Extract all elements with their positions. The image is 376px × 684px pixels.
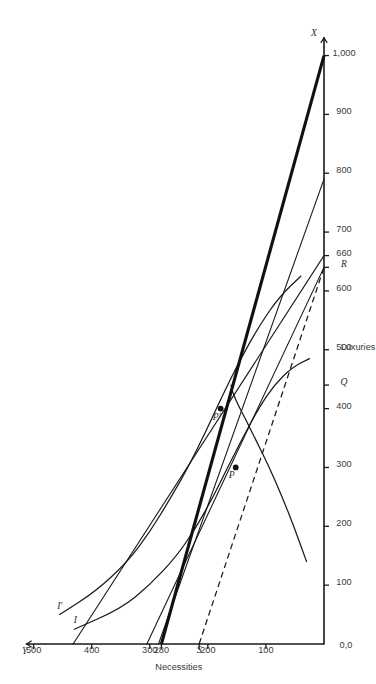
- y-axis-title: Necessities: [155, 662, 202, 672]
- series-budget-line-2: [158, 179, 324, 644]
- x-ticklabel-600: 600: [336, 283, 351, 293]
- y-ticklabel-200: 200: [200, 645, 215, 655]
- y-ticklabel-100: 100: [258, 645, 273, 655]
- chart-axes: [27, 38, 324, 644]
- series-I: [74, 359, 309, 630]
- x-ticklabel-700: 700: [336, 224, 351, 234]
- series-I': [60, 276, 301, 614]
- series-budget-line-1: [147, 267, 324, 644]
- series-budget-line-3: [73, 256, 324, 644]
- y-ticklabel-400: 400: [84, 645, 99, 655]
- axis-mark-Q: Q: [341, 376, 348, 387]
- x-ticklabel-800: 800: [336, 165, 351, 175]
- y-ticklabel-500: 500: [26, 645, 41, 655]
- x-axis-end-label: X: [310, 27, 318, 38]
- curve-label-I: I: [73, 614, 78, 625]
- x-ticklabel-100: 100: [336, 577, 351, 587]
- curve-label-I': I': [56, 600, 63, 611]
- series-budget-line-bold: [161, 56, 324, 644]
- x-ticklabel-200: 200: [336, 518, 351, 528]
- axis-mark-R: R: [340, 258, 347, 269]
- axis-mark-S: S: [197, 644, 202, 655]
- x-ticklabel-660: 660: [336, 248, 351, 258]
- plot-area: 1002003004005006006607008009001,00010020…: [22, 27, 376, 672]
- series-Q-curve: [231, 385, 307, 562]
- x-ticklabel-900: 900: [336, 106, 351, 116]
- point-label-P: P: [228, 469, 235, 480]
- y-ticklabel-300: 300: [142, 645, 157, 655]
- x-ticklabel-300: 300: [336, 459, 351, 469]
- x-axis-title: Luxuries: [341, 342, 376, 352]
- origin-label: 0,0: [340, 640, 353, 650]
- indifference-curve-figure: 1002003004005006006607008009001,00010020…: [0, 0, 376, 684]
- x-ticklabel-1,000: 1,000: [333, 48, 356, 58]
- x-ticklabel-400: 400: [336, 401, 351, 411]
- point-label-P': P': [212, 411, 222, 422]
- chart-root: 1002003004005006006607008009001,00010020…: [0, 0, 376, 684]
